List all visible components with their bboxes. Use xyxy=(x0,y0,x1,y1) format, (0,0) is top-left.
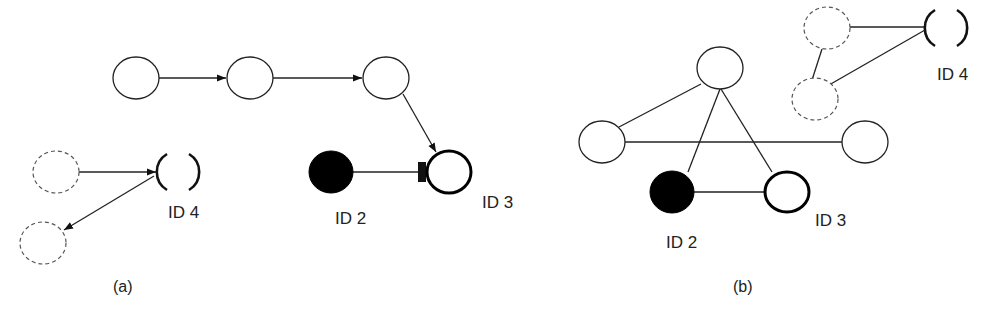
panel-a: ID 4 ID 2 ID 3 (a) xyxy=(20,57,513,295)
edge-a-id4-d2 xyxy=(64,176,154,230)
panel-b-edges xyxy=(619,27,925,192)
edge-b-top-id3 xyxy=(721,89,772,172)
node-b-id4-broken xyxy=(925,10,967,46)
panel-b: ID 4 ID 2 ID 3 (b) xyxy=(579,7,968,295)
node-a-id2-filled xyxy=(309,151,353,193)
caption-a: (a) xyxy=(113,278,133,295)
edge-b-top-left xyxy=(619,84,701,127)
node-b-id3-thick xyxy=(765,172,809,212)
node-a-n1 xyxy=(113,57,159,99)
panel-a-edges xyxy=(64,78,436,230)
node-b-dashed-1 xyxy=(804,7,850,49)
node-b-dashed-2 xyxy=(792,78,838,120)
node-b-top xyxy=(697,47,743,89)
diagram-canvas: ID 4 ID 2 ID 3 (a) ID 4 ID 2 ID 3 ( xyxy=(0,0,991,315)
label-a-id2: ID 2 xyxy=(335,209,366,228)
label-b-id4: ID 4 xyxy=(937,65,968,84)
edge-b-top-id2 xyxy=(688,89,720,172)
node-a-n3 xyxy=(363,57,409,99)
label-b-id3: ID 3 xyxy=(815,211,846,230)
node-b-id2-filled xyxy=(650,171,694,213)
node-a-dashed-1 xyxy=(33,151,79,193)
node-b-right xyxy=(842,121,888,163)
node-a-dashed-2 xyxy=(20,222,66,264)
node-a-id4-broken xyxy=(157,154,199,190)
node-a-id3-thick xyxy=(427,151,471,193)
node-b-left xyxy=(579,121,625,163)
label-b-id2: ID 2 xyxy=(666,233,697,252)
label-a-id3: ID 3 xyxy=(482,193,513,212)
blocked-square-icon xyxy=(418,162,426,182)
label-a-id4: ID 4 xyxy=(168,203,199,222)
caption-b: (b) xyxy=(733,278,753,295)
edge-b-d1-d2 xyxy=(812,49,822,80)
edge-a-n3-id3 xyxy=(403,94,436,152)
node-a-n2 xyxy=(227,57,273,99)
